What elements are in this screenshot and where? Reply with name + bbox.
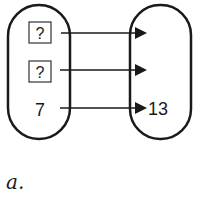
arrowhead-icon xyxy=(135,64,147,76)
range-item-3: 13 xyxy=(148,99,168,119)
arrow-1 xyxy=(61,27,147,39)
domain-item-2: ? xyxy=(36,64,45,81)
arrow-3 xyxy=(60,102,147,114)
domain-item-3: 7 xyxy=(35,100,45,120)
arrowhead-icon xyxy=(135,102,147,114)
domain-item-1: ? xyxy=(36,25,45,42)
arrowhead-icon xyxy=(135,27,147,39)
arrow-2 xyxy=(60,64,147,76)
mapping-diagram: ? ? 7 13 xyxy=(0,0,211,197)
caption: a. xyxy=(6,170,24,194)
